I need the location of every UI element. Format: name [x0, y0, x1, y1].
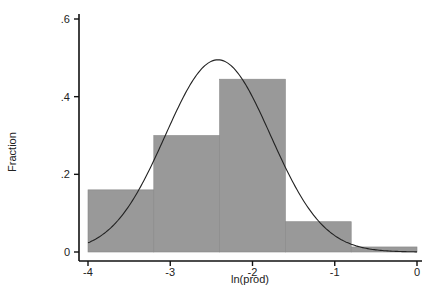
- histogram-bar: [220, 79, 286, 252]
- y-axis-label: Fraction: [6, 132, 18, 172]
- chart-canvas: 0.2.4.6-4-3-2-10 ln(prod) Fraction: [0, 0, 433, 294]
- histogram-bars: [88, 79, 417, 252]
- y-tick-label: .2: [61, 168, 70, 180]
- x-tick-label: -3: [165, 266, 175, 278]
- y-tick-label: 0: [64, 246, 70, 258]
- histogram-bar: [88, 190, 154, 252]
- x-tick-label: -1: [330, 266, 340, 278]
- y-tick-label: .4: [61, 91, 70, 103]
- x-axis-label: ln(prod): [231, 273, 269, 285]
- histogram-bar: [285, 222, 351, 252]
- x-tick-label: 0: [414, 266, 420, 278]
- y-tick-label: .6: [61, 13, 70, 25]
- histogram-bar: [154, 136, 220, 253]
- x-tick-label: -4: [83, 266, 93, 278]
- histogram-chart: 0.2.4.6-4-3-2-10 ln(prod) Fraction: [0, 0, 433, 294]
